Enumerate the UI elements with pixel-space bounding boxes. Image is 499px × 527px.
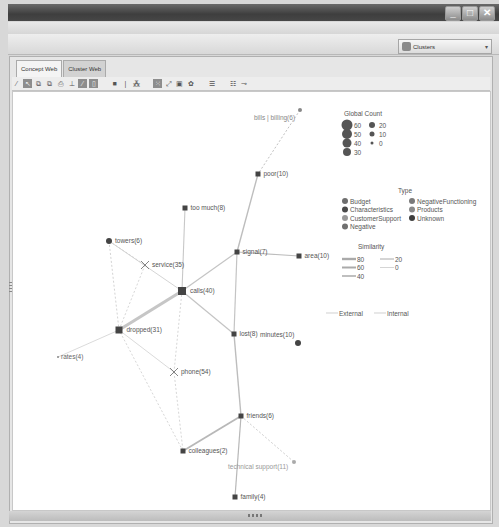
count-size-icon [342, 120, 353, 131]
legend-type-label: Unknown [417, 215, 444, 222]
graph-edge[interactable] [182, 291, 234, 334]
circle-layout-icon: ✿ [188, 80, 194, 88]
graph-node-towers[interactable]: towers(6) [106, 237, 142, 245]
expand-button[interactable]: ⤢ [164, 79, 173, 88]
graph-edge[interactable] [174, 372, 183, 451]
node-label: colleagues(2) [189, 447, 228, 455]
node-dot-icon [292, 460, 296, 464]
legend-type-label: Negative [350, 223, 376, 231]
legend-count-label: 30 [354, 149, 362, 156]
maximize-button[interactable]: □ [462, 6, 478, 21]
legend-count-label: 60 [354, 122, 362, 129]
fill-square-icon: ■ [112, 80, 116, 87]
graph-edge[interactable] [241, 416, 294, 462]
window-button[interactable]: ▣ [175, 79, 184, 88]
node-square-icon [232, 332, 237, 337]
graph-node-area[interactable]: area(10) [297, 252, 330, 260]
node-square-icon [178, 287, 186, 295]
legend-type-label: Characteristics [350, 206, 394, 213]
graph-node-toomuch[interactable]: too much(8) [183, 204, 226, 212]
brush-button[interactable]: ⁄ [12, 79, 21, 88]
close-button[interactable]: ✕ [479, 6, 495, 21]
legend-link-kind-label: Internal [387, 310, 409, 317]
graph-node-bills[interactable]: bills | billing(6) [254, 108, 302, 122]
graph-node-colleagues[interactable]: colleagues(2) [181, 447, 228, 455]
window-titlebar: _□✕ [8, 4, 499, 21]
window-controls: _□✕ [445, 6, 495, 21]
paste-button[interactable]: ⧉ [45, 79, 54, 88]
count-size-icon [343, 139, 352, 148]
edge-tool-button[interactable]: ⁄ [78, 79, 87, 88]
node-square-icon [181, 449, 186, 454]
graph-edge[interactable] [119, 330, 174, 372]
circle-layout-button[interactable]: ✿ [186, 79, 195, 88]
graph-node-phone[interactable]: phone(54) [170, 368, 211, 376]
filter-icon: ☰ [209, 80, 215, 88]
clusters-icon [402, 42, 411, 51]
node-link-button[interactable]: ⊸ [239, 79, 248, 88]
select-arrow-button[interactable]: ↖ [23, 79, 32, 88]
magic-wand-button[interactable]: ⁂ [132, 79, 141, 88]
concept-web-graph[interactable]: bills | billing(6)poor(10)too much(8)tow… [13, 92, 490, 510]
graph-node-service[interactable]: service(35) [141, 261, 184, 269]
graph-toolbar: ⁄↖⧉⧉⎙⊥⁄▯■|⁂⁙⤢▣✿☰☷⊸ [12, 77, 490, 91]
bottom-splitter-handle[interactable] [248, 514, 262, 517]
node-label: calls(40) [190, 287, 215, 295]
graph-node-lost[interactable]: lost(8) [232, 330, 258, 338]
view-selector-dropdown[interactable]: Clusters ▾ [398, 39, 492, 54]
graph-node-friends[interactable]: friends(6) [239, 412, 274, 420]
graph-edge[interactable] [182, 252, 237, 291]
layout-grid-icon: ⁙ [155, 80, 161, 88]
magic-wand-icon: ⁂ [133, 80, 140, 88]
graph-edge[interactable] [174, 291, 182, 372]
count-size-icon [342, 129, 352, 139]
graph-node-poor[interactable]: poor(10) [256, 170, 289, 178]
legend-global-count-title: Global Count [344, 110, 382, 117]
connect-button[interactable]: ⊥ [67, 79, 76, 88]
graph-node-family[interactable]: family(4) [233, 493, 266, 501]
type-swatch-icon [342, 224, 348, 230]
node-square-icon [233, 495, 238, 500]
graph-edge[interactable] [237, 174, 258, 252]
list-button[interactable]: ☷ [228, 79, 237, 88]
graph-node-dropped[interactable]: dropped(31) [116, 326, 162, 334]
list-icon: ☷ [230, 80, 236, 88]
graph-edge[interactable] [182, 208, 185, 291]
divider-line-button[interactable]: | [121, 79, 130, 88]
node-tool-button[interactable]: ▯ [89, 79, 98, 88]
tab-concept-web[interactable]: Concept Web [16, 60, 62, 78]
layout-grid-button[interactable]: ⁙ [153, 79, 162, 88]
graph-node-calls[interactable]: calls(40) [178, 287, 215, 295]
tab-cluster-web[interactable]: Cluster Web [63, 60, 106, 77]
graph-edge[interactable] [119, 330, 183, 451]
graph-canvas[interactable]: bills | billing(6)poor(10)too much(8)tow… [12, 91, 491, 511]
graph-node-signal[interactable]: signal(7) [235, 248, 268, 256]
node-label: poor(10) [264, 170, 289, 178]
print-button[interactable]: ⎙ [56, 79, 65, 88]
graph-edge[interactable] [234, 252, 237, 334]
connect-icon: ⊥ [69, 80, 75, 88]
node-square-icon [116, 327, 123, 334]
node-label: rates(4) [61, 353, 83, 361]
graph-edge[interactable] [109, 241, 119, 330]
fill-square-button[interactable]: ■ [110, 79, 119, 88]
graph-edge[interactable] [119, 291, 182, 330]
graph-edge[interactable] [183, 416, 241, 451]
graph-edge[interactable] [234, 334, 241, 416]
filter-button[interactable]: ☰ [207, 79, 216, 88]
copy-icon: ⧉ [36, 80, 41, 88]
graph-node-rates[interactable]: rates(4) [57, 353, 83, 361]
node-label: signal(7) [243, 248, 268, 256]
legend-type-label: NegativeFunctioning [417, 198, 477, 206]
count-size-icon [343, 148, 351, 156]
graph-edge[interactable] [235, 416, 241, 497]
count-size-icon [370, 132, 375, 137]
type-swatch-icon [409, 215, 415, 221]
node-square-icon [183, 206, 188, 211]
type-swatch-icon [342, 215, 348, 221]
minimize-button[interactable]: _ [445, 6, 461, 21]
copy-button[interactable]: ⧉ [34, 79, 43, 88]
graph-node-minutes[interactable]: minutes(10) [260, 331, 301, 346]
menu-bar [8, 22, 499, 34]
node-dot-icon [298, 108, 302, 112]
